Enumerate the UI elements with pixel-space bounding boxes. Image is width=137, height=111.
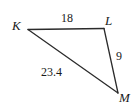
side-length-label-lm: 9 <box>116 50 122 62</box>
segment-kl <box>28 29 104 30</box>
vertex-label-m: M <box>119 91 130 104</box>
vertex-label-k: K <box>12 19 21 32</box>
side-length-label-km: 23.4 <box>41 66 62 78</box>
vertex-label-l: L <box>105 14 112 27</box>
side-length-label-kl: 18 <box>61 12 73 24</box>
segment-km <box>28 30 118 94</box>
triangle-diagram: K L M 18 9 23.4 <box>0 0 137 111</box>
